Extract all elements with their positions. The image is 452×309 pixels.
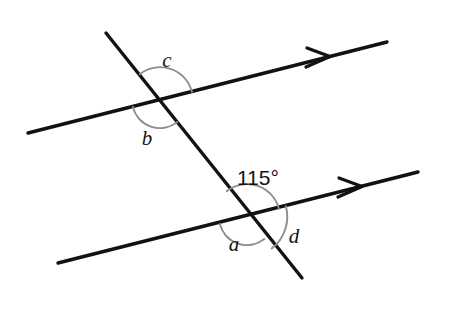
angle-label-115: 115° xyxy=(237,166,279,189)
geometry-figure-svg: c b 115° a d xyxy=(0,0,452,309)
angle-label-c: c xyxy=(162,48,172,72)
upper-parallel-line xyxy=(28,42,387,133)
angle-label-a: a xyxy=(229,232,240,256)
angle-label-d: d xyxy=(289,224,300,248)
angle-arc-a xyxy=(220,224,264,245)
upper-line-arrowhead xyxy=(306,48,330,67)
angle-arc-b xyxy=(133,107,178,128)
geometry-diagram: c b 115° a d xyxy=(0,0,452,309)
angle-label-b: b xyxy=(142,126,153,150)
